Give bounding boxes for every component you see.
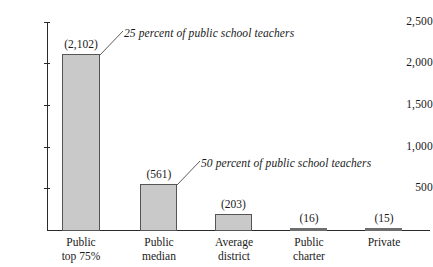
plot-area: 2,500 2,000 1,500 1,000 500 (2,102) (561… [0,0,433,267]
category-line-1: Average [215,236,253,248]
bar-public-charter [290,228,327,231]
category-label-public-median: Public median [126,236,192,263]
category-line-2: top 75% [48,250,114,264]
y-tick-1000 [44,147,50,148]
category-line-1: Public [144,236,173,248]
y-tick-label-2500: 2,500 [393,16,433,28]
y-tick-2000 [44,63,50,64]
y-tick-1500 [44,105,50,106]
bar-private [365,228,402,231]
category-label-private: Private [351,236,417,250]
category-line-2: median [126,250,192,264]
bar-average-district [215,214,252,231]
y-tick-label-1500: 1,500 [393,99,433,111]
bar-chart: 2,500 2,000 1,500 1,000 500 (2,102) (561… [0,0,433,267]
category-line-2: district [201,250,267,264]
category-line-1: Public [66,236,95,248]
category-label-average-district: Average district [201,236,267,263]
y-tick-label-500: 500 [393,182,433,194]
y-axis-line [47,22,48,231]
bar-value-public-charter: (16) [278,212,340,224]
bar-public-median [140,184,177,231]
annotation-50-percent: 50 percent of public school teachers [201,157,371,169]
category-label-public-charter: Public charter [276,236,342,263]
y-tick-500 [44,188,50,189]
category-line-1: Public [294,236,323,248]
leader-line-lower [175,160,201,186]
annotation-25-percent: 25 percent of public school teachers [124,27,294,39]
leader-line-upper [98,30,124,56]
category-line-2: charter [276,250,342,264]
bar-value-average-district: (203) [202,198,265,210]
y-tick-2500 [44,22,50,23]
category-label-public-top-75: Public top 75% [48,236,114,263]
bar-value-private: (15) [353,212,415,224]
bar-public-top-75 [62,54,100,231]
y-tick-label-2000: 2,000 [393,57,433,69]
y-tick-label-1000: 1,000 [393,141,433,153]
category-line-1: Private [368,236,401,248]
